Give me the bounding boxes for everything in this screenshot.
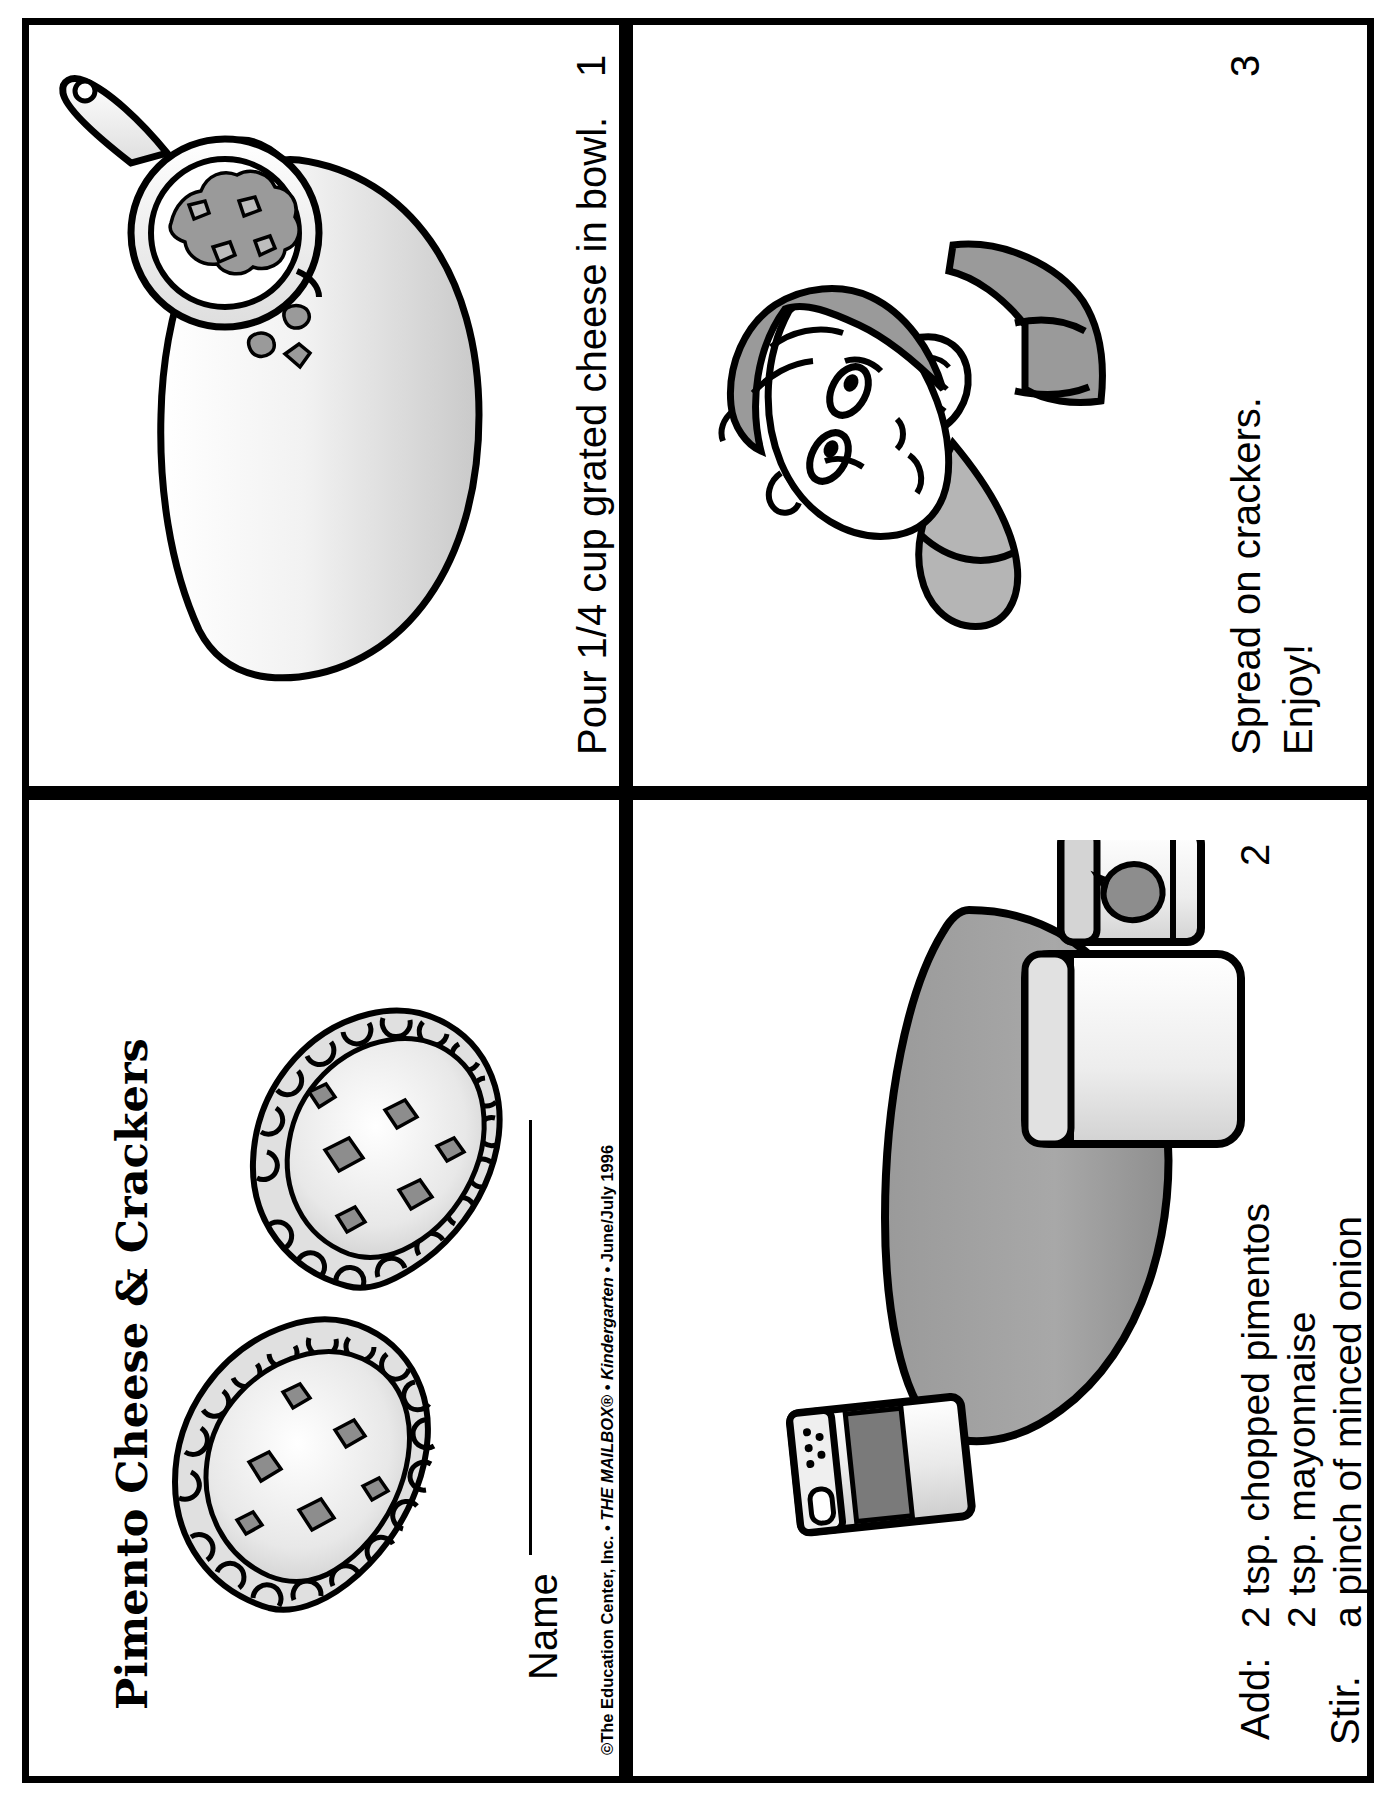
panel-1-step-text: Pour 1/4 cup grated cheese in bowl. [569,117,616,755]
panel-2-number: 2 [1233,844,1278,866]
copyright-grade: Kindergarten [598,1277,616,1380]
copyright-post: • June/July 1996 [598,1145,616,1277]
panel-2-ingredient: 2 tsp. chopped pimentos [1233,1203,1279,1628]
panel-3: Spread on crackers. Enjoy! 3 [633,25,1367,785]
panel-3-step-line-2: Enjoy! [1275,644,1322,755]
copyright-pre: ©The Education Center, Inc. • [598,1521,616,1755]
name-line [529,1120,532,1555]
bowl-jars-shaker-illustration [773,840,1293,1560]
panel-divider-horizontal [29,786,1367,800]
copyright-mailbox: THE MAILBOX [598,1407,616,1521]
measuring-cup-and-bowl-illustration [49,65,549,715]
panel-2-footer: Stir. [1323,1676,1367,1745]
title-panel: Pimento Cheese & Crackers [29,800,619,1776]
name-label: Name [521,1573,566,1680]
panel-3-step-line-1: Spread on crackers. [1223,397,1270,755]
panel-1: Pour 1/4 cup grated cheese in bowl. 1 [29,25,619,785]
panel-divider-vertical [619,25,633,1776]
panel-2: Add: 2 tsp. chopped pimentos 2 tsp. mayo… [633,800,1367,1776]
copyright-mid: • [598,1380,616,1395]
copyright-reg: ® [598,1395,616,1407]
panel-2-lead: Add: [1233,1658,1278,1740]
crackers-illustration [149,1000,519,1620]
panel-3-number: 3 [1223,55,1268,77]
copyright-credit: ©The Education Center, Inc. • THE MAILBO… [598,1145,617,1755]
panel-1-number: 1 [569,55,614,77]
child-eating-cracker-illustration [653,205,1123,635]
panel-2-ingredient: a pinch of minced onion [1325,1216,1367,1628]
worksheet-page: Pour 1/4 cup grated cheese in bowl. 1 [0,0,1396,1799]
panel-2-ingredient: 2 tsp. mayonnaise [1279,1311,1325,1628]
